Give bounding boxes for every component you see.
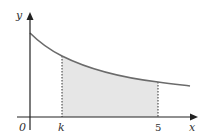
tick-label-k: k <box>58 121 65 134</box>
x-axis-label: x <box>189 121 196 134</box>
shaded-area <box>62 56 158 117</box>
y-axis-arrow-icon <box>27 12 34 20</box>
y-axis-label: y <box>15 9 23 22</box>
x-axis-arrow-icon <box>190 114 198 121</box>
tick-label-5: 5 <box>155 122 161 133</box>
origin-label: 0 <box>19 121 26 134</box>
area-diagram: y x 0 k 5 <box>0 0 204 137</box>
